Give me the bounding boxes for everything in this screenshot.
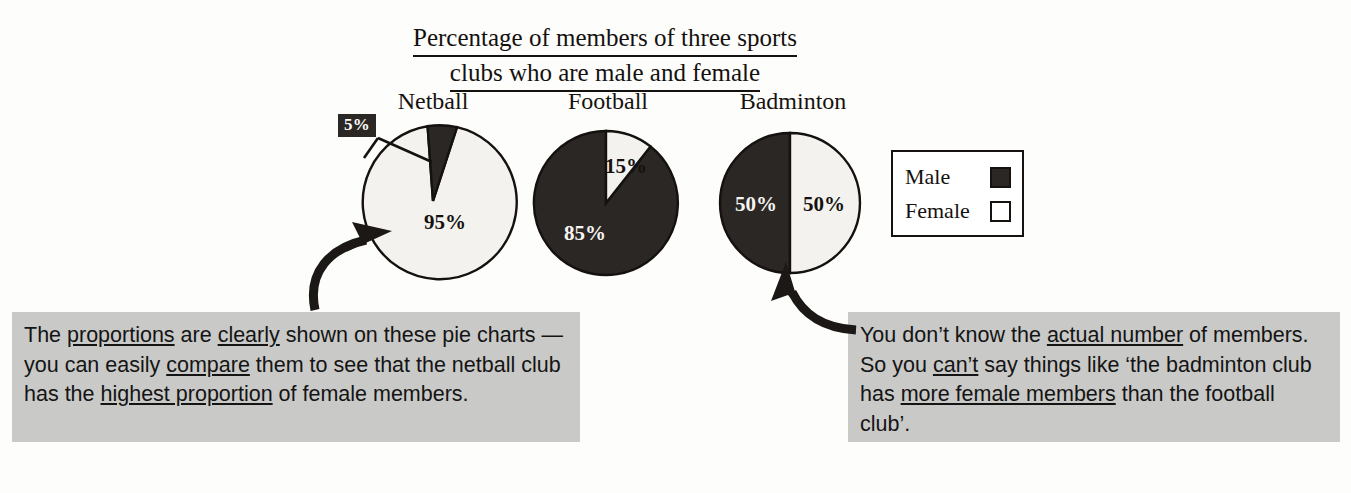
legend-label-female: Female xyxy=(905,198,970,224)
annotation-left-underline-2: clearly xyxy=(218,323,280,347)
pie-value-football-female: 15% xyxy=(605,154,647,178)
figure-root: Percentage of members of three sports cl… xyxy=(0,0,1351,493)
annotation-left-seg1: The xyxy=(24,323,67,347)
pie-label-football: Football xyxy=(548,88,668,115)
pie-label-badminton: Badminton xyxy=(723,88,863,115)
annotation-right-underline-2: can’t xyxy=(933,353,978,377)
pie-chart-badminton: 50% 50% xyxy=(718,131,866,279)
chart-title-line-1: Percentage of members of three sports xyxy=(413,22,797,57)
pie-chart-football: 15% 85% xyxy=(533,130,683,280)
legend-label-male: Male xyxy=(905,164,950,190)
annotation-right-underline-1: actual number xyxy=(1047,323,1183,347)
chart-title: Percentage of members of three sports cl… xyxy=(370,22,840,92)
annotation-left-seg5: of female members. xyxy=(273,382,469,406)
pie-chart-netball: 95% xyxy=(355,123,515,283)
pie-value-netball-male-callout: 5% xyxy=(338,114,376,137)
pie-value-badminton-male: 50% xyxy=(735,192,777,216)
annotation-left-seg2: are xyxy=(175,323,218,347)
pie-value-netball-female: 95% xyxy=(424,210,466,234)
pie-label-netball: Netball xyxy=(373,88,493,115)
annotation-left-underline-1: proportions xyxy=(67,323,175,347)
legend-swatch-female-icon xyxy=(990,201,1011,222)
pie-value-football-male: 85% xyxy=(564,221,606,245)
legend-swatch-male-icon xyxy=(990,167,1011,188)
legend-item-male: Male xyxy=(905,160,1017,194)
legend-item-female: Female xyxy=(905,194,1017,228)
pie-value-badminton-female: 50% xyxy=(803,192,845,216)
legend: Male Female xyxy=(891,150,1024,237)
annotation-right-underline-3: more female members xyxy=(901,382,1116,406)
annotation-box-right: You don’t know the actual number of memb… xyxy=(848,312,1340,442)
annotation-box-left: The proportions are clearly shown on the… xyxy=(12,312,580,442)
annotation-left-underline-4: highest proportion xyxy=(101,382,273,406)
arrow-right-curve xyxy=(792,292,856,330)
annotation-right-seg1: You don’t know the xyxy=(860,323,1047,347)
chart-title-line-2: clubs who are male and female xyxy=(450,57,760,92)
annotation-left-underline-3: compare xyxy=(166,353,250,377)
